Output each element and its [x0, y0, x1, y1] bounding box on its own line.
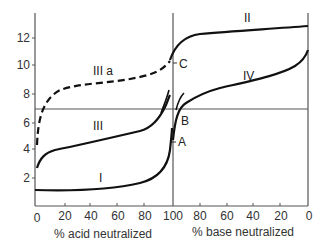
svg-text:60: 60: [111, 209, 125, 223]
label-curve-III: III: [93, 119, 103, 133]
svg-text:20: 20: [58, 209, 72, 223]
svg-text:0: 0: [306, 209, 313, 223]
titration-chart: 12 10 8 6 4 2 0 20 40 60 80 100 80 60 40…: [0, 0, 329, 252]
label-B: B: [181, 114, 189, 128]
svg-text:10: 10: [17, 58, 31, 72]
svg-text:12: 12: [17, 31, 31, 45]
curve-I: [35, 128, 172, 190]
curve-II: [170, 26, 308, 60]
svg-text:40: 40: [246, 209, 260, 223]
curve-IV: [173, 50, 308, 140]
svg-text:40: 40: [84, 209, 98, 223]
y-tick-labels: 12 10 8 6 4 2: [17, 31, 31, 185]
svg-text:0: 0: [34, 211, 41, 225]
label-A: A: [178, 135, 186, 149]
label-curve-II: II: [244, 11, 251, 25]
svg-text:8: 8: [23, 87, 30, 101]
svg-text:4: 4: [23, 142, 30, 156]
label-C: C: [179, 57, 188, 71]
svg-text:80: 80: [138, 209, 152, 223]
svg-text:20: 20: [274, 209, 288, 223]
svg-text:2: 2: [23, 171, 30, 185]
svg-text:100: 100: [163, 209, 183, 223]
x-tick-labels-right: 80 60 40 20 0: [193, 209, 312, 223]
label-curve-IIIa: III a: [93, 64, 113, 78]
label-curve-IV: IV: [243, 69, 254, 83]
svg-text:80: 80: [193, 209, 207, 223]
label-curve-I: I: [99, 171, 102, 185]
x-axis-title-right: % base neutralized: [192, 225, 294, 239]
svg-text:60: 60: [220, 209, 234, 223]
x-axis-title-left: % acid neutralized: [54, 227, 152, 241]
curve-III: [37, 95, 170, 168]
svg-text:6: 6: [23, 116, 30, 130]
x-tick-labels-left: 0 20 40 60 80 100: [34, 209, 184, 225]
